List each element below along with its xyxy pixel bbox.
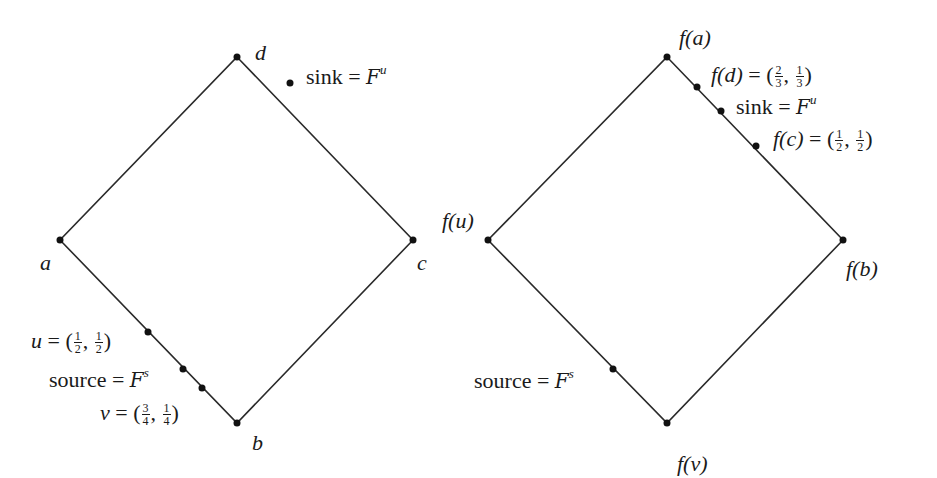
- label-fv: f(v): [677, 453, 708, 475]
- var-fc: f(c): [773, 126, 804, 151]
- superscript-u: u: [810, 92, 817, 107]
- sink-text: sink: [736, 94, 773, 119]
- close-paren: ): [805, 62, 812, 87]
- script-f: F: [555, 369, 569, 393]
- superscript-u: u: [380, 62, 387, 77]
- denominator: 4: [142, 415, 150, 427]
- comma: ,: [784, 62, 790, 87]
- equals-open: = (: [748, 62, 773, 87]
- fraction: 23: [775, 64, 783, 89]
- point-fc-dot: [753, 143, 760, 150]
- equals-open: = (: [809, 126, 834, 151]
- sink-dot: [287, 80, 294, 87]
- denominator: 2: [835, 141, 843, 153]
- denominator: 2: [95, 343, 103, 355]
- label-u: u = (12, 12): [31, 330, 111, 355]
- comma: ,: [83, 328, 89, 353]
- comma: ,: [151, 400, 157, 425]
- equals-sign: =: [348, 64, 360, 89]
- source-text: source: [49, 367, 106, 392]
- label-fu: f(u): [442, 210, 474, 232]
- vertex-fu-dot: [485, 237, 492, 244]
- script-f: F: [366, 65, 380, 89]
- label-d: d: [255, 42, 266, 64]
- label-b: b: [252, 432, 263, 454]
- vertex-c-dot: [410, 237, 417, 244]
- fraction: 12: [95, 330, 103, 355]
- vertex-a-dot: [57, 237, 64, 244]
- label-source-left: source = Fs: [49, 369, 149, 391]
- close-paren: ): [104, 328, 111, 353]
- comma: ,: [844, 126, 850, 151]
- fraction: 12: [856, 128, 864, 153]
- label-fc: f(c) = (12, 12): [773, 128, 873, 153]
- script-f: F: [130, 368, 144, 392]
- vertex-b-dot: [234, 420, 241, 427]
- label-source-right: source = Fs: [474, 370, 574, 392]
- label-fd: f(d) = (23, 13): [711, 64, 812, 89]
- close-paren: ): [172, 400, 179, 425]
- vertex-fb-dot: [840, 237, 847, 244]
- denominator: 2: [856, 141, 864, 153]
- point-v-dot: [199, 385, 206, 392]
- label-fb: f(b): [846, 258, 878, 280]
- source-dot-right: [610, 366, 617, 373]
- fraction: 34: [142, 402, 150, 427]
- label-sink-left: sink = Fu: [306, 66, 387, 88]
- superscript-s: s: [569, 366, 574, 381]
- source-text: source: [474, 368, 531, 393]
- label-fa: f(a): [679, 27, 711, 49]
- var-v: v: [100, 400, 110, 425]
- script-f: F: [796, 95, 810, 119]
- sink-dot-right: [718, 108, 725, 115]
- denominator: 3: [775, 77, 783, 89]
- equals-sign: =: [112, 367, 124, 392]
- equals-sign: =: [537, 368, 549, 393]
- fraction: 12: [835, 128, 843, 153]
- label-a: a: [40, 252, 51, 274]
- equals-sign: =: [778, 94, 790, 119]
- fraction: 14: [163, 402, 171, 427]
- fraction: 13: [796, 64, 804, 89]
- vertex-fa-dot: [664, 54, 671, 61]
- var-fd: f(d): [711, 62, 743, 87]
- label-c: c: [417, 252, 427, 274]
- point-fd-dot: [694, 84, 701, 91]
- source-dot: [180, 366, 187, 373]
- equals-open: = (: [115, 400, 140, 425]
- var-u: u: [31, 328, 42, 353]
- vertex-d-dot: [234, 54, 241, 61]
- denominator: 4: [163, 415, 171, 427]
- label-v: v = (34, 14): [100, 402, 179, 427]
- vertex-fv-dot: [664, 420, 671, 427]
- label-sink-right: sink = Fu: [736, 96, 817, 118]
- equals-open: = (: [48, 328, 73, 353]
- superscript-s: s: [144, 365, 149, 380]
- sink-text: sink: [306, 64, 343, 89]
- denominator: 3: [796, 77, 804, 89]
- fraction: 12: [74, 330, 82, 355]
- denominator: 2: [74, 343, 82, 355]
- close-paren: ): [865, 126, 872, 151]
- point-u-dot: [145, 329, 152, 336]
